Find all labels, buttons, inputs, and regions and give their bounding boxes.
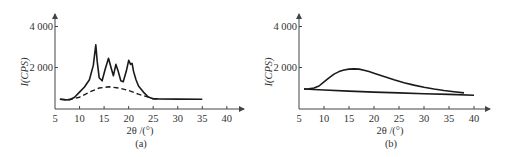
- x-tick-label: 20: [123, 113, 134, 124]
- xrd-figure: 510152025303540 2 0004 000 I(CPS) 2θ /(°…: [0, 0, 505, 157]
- y-tick-label: 4 000: [273, 21, 297, 32]
- x-tick-label: 5: [296, 113, 301, 124]
- x-tick-label: 20: [369, 113, 380, 124]
- x-tick-label: 35: [444, 113, 455, 124]
- panel-caption: (b): [385, 138, 398, 150]
- x-tick-label: 10: [74, 113, 85, 124]
- pattern-curve: [304, 89, 474, 95]
- y-axis-title: I(CPS): [263, 57, 275, 88]
- x-tick-label: 35: [197, 113, 208, 124]
- y-tick-label: 2 000: [29, 62, 53, 73]
- x-tick-label: 25: [394, 113, 405, 124]
- x-tick-label: 10: [319, 113, 330, 124]
- y-axis-title: I(CPS): [19, 57, 31, 88]
- x-tick-label: 40: [469, 113, 480, 124]
- chart-panel-a: 510152025303540 2 0004 000 I(CPS) 2θ /(°…: [19, 14, 244, 150]
- x-tick-label: 40: [222, 113, 233, 124]
- y-tick-label: 2 000: [273, 62, 297, 73]
- panel-caption: (a): [135, 138, 147, 150]
- y-tick-label: 4 000: [29, 21, 53, 32]
- x-tick-label: 25: [148, 113, 159, 124]
- x-tick-label: 15: [344, 113, 355, 124]
- pattern-curve: [304, 69, 464, 93]
- x-tick-label: 15: [99, 113, 110, 124]
- chart-panel-b: 510152025303540 2 0004 000 I(CPS) 2θ /(°…: [263, 14, 490, 150]
- data-series: [304, 69, 474, 95]
- x-axis-title: 2θ /(°): [126, 125, 154, 137]
- x-tick-label: 30: [173, 113, 184, 124]
- y-ticks: 2 0004 000: [273, 21, 302, 73]
- x-axis-title: 2θ /(°): [376, 125, 404, 137]
- x-tick-label: 5: [52, 113, 57, 124]
- data-series: [60, 45, 202, 100]
- y-ticks: 2 0004 000: [29, 21, 58, 73]
- x-tick-label: 30: [419, 113, 430, 124]
